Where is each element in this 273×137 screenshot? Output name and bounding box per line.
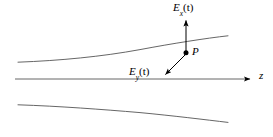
field-vector-ex-base: E [173, 1, 180, 13]
field-vector-ex-subscript: x [180, 9, 183, 18]
beam-diagram-figure: Ex(t) Ey(t) P z [0, 0, 273, 137]
field-vector-ey-base: E [129, 65, 136, 77]
field-vector-ex-argument: (t) [183, 1, 193, 13]
field-vector-ey-arrow [166, 54, 187, 75]
point-p-label: P [192, 46, 199, 57]
field-vector-ey-subscript: y [136, 73, 139, 82]
axis-z-label: z [259, 70, 263, 81]
field-vector-ey-argument: (t) [139, 65, 149, 77]
lower-envelope-curve [18, 105, 228, 123]
field-vector-ey-label: Ey(t) [129, 66, 149, 80]
point-p-marker [184, 50, 189, 55]
field-vector-ex-label: Ex(t) [173, 2, 193, 16]
